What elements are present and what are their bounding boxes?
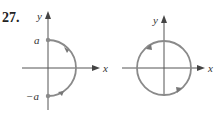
- endpoint-top: [46, 38, 50, 42]
- x-label: x: [207, 62, 213, 74]
- y-label: y: [36, 10, 42, 22]
- x-label: x: [102, 62, 108, 74]
- y-axis-arrow-icon: [161, 15, 167, 23]
- endpoint-bottom: [46, 94, 50, 98]
- x-axis-arrow-icon: [92, 65, 100, 71]
- y-axis-arrow-icon: [45, 11, 51, 19]
- label-a: a: [34, 34, 40, 46]
- label-neg-a: −a: [26, 90, 39, 102]
- circle-figure: x y: [122, 14, 213, 96]
- y-label: y: [152, 14, 158, 26]
- diagram-canvas: x y a −a x y: [0, 0, 223, 115]
- x-axis-arrow-icon: [197, 65, 205, 71]
- semicircle-figure: x y a −a: [22, 10, 108, 110]
